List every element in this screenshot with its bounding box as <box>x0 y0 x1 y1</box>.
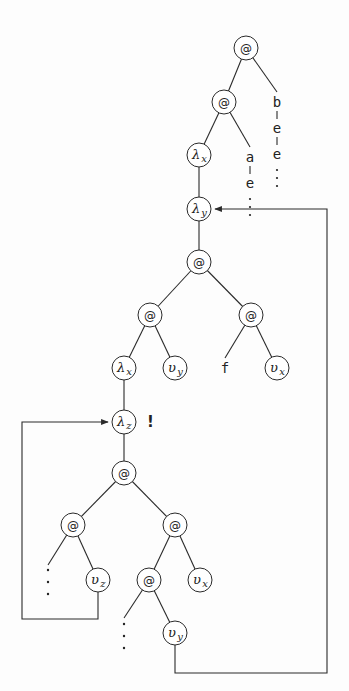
var-node-vy1: υy <box>163 356 187 380</box>
back-edges <box>22 209 327 673</box>
svg-text:x: x <box>126 366 132 377</box>
ellipsis-subtree-0 <box>47 569 49 595</box>
tree-edges <box>48 48 277 633</box>
annotation-bang: ! <box>147 413 154 431</box>
tree-nodes: @@λxλy@@@λxυyυxλz@@@υz@υxυy <box>61 36 289 645</box>
svg-text:e: e <box>246 175 254 191</box>
app-node-app9: @ <box>137 568 161 592</box>
svg-text:@: @ <box>169 519 181 533</box>
svg-text:@: @ <box>143 574 155 588</box>
app-node-app4: @ <box>138 303 162 327</box>
svg-text:υ: υ <box>168 360 176 375</box>
svg-text:b: b <box>273 94 281 110</box>
svg-text:@: @ <box>245 309 257 323</box>
app-node-app3: @ <box>187 250 211 274</box>
app-node-app7: @ <box>61 513 85 537</box>
svg-text:@: @ <box>144 309 156 323</box>
svg-text:λ: λ <box>116 360 125 375</box>
app-node-app5: @ <box>239 303 263 327</box>
back-edge-loop-y <box>175 209 327 673</box>
lambda-node-lamx1: λx <box>187 143 211 167</box>
chain-a: ae <box>246 149 254 216</box>
svg-text:@: @ <box>118 467 130 481</box>
svg-text:λ: λ <box>191 201 200 216</box>
app-node-app2: @ <box>212 90 236 114</box>
lambda-node-lamz: λz <box>112 410 136 434</box>
svg-text:@: @ <box>67 519 79 533</box>
app-node-app6: @ <box>112 461 136 485</box>
svg-text:z: z <box>99 578 106 589</box>
svg-text:y: y <box>176 366 183 377</box>
svg-text:@: @ <box>193 256 205 270</box>
svg-text:υ: υ <box>193 572 201 587</box>
svg-text:y: y <box>200 207 207 218</box>
diagram-svg: faebee @@λxλy@@@λxυyυxλz@@@υz@υxυy ! <box>0 0 349 691</box>
ellipsis-subtree-1 <box>123 623 125 649</box>
var-node-vx2: υx <box>188 568 212 592</box>
lambda-node-lamx2: λx <box>112 356 136 380</box>
svg-text:υ: υ <box>91 572 99 587</box>
svg-text:x: x <box>279 366 285 377</box>
var-node-vy2: υy <box>163 621 187 645</box>
var-node-vz: υz <box>86 568 110 592</box>
lambda-graph-diagram: faebee @@λxλy@@@λxυyυxλz@@@υz@υxυy ! <box>0 0 349 691</box>
svg-text:@: @ <box>240 42 252 56</box>
chain-b: bee <box>273 94 281 187</box>
app-node-app1: @ <box>234 36 258 60</box>
svg-text:υ: υ <box>270 360 278 375</box>
var-node-vx1: υx <box>265 356 289 380</box>
svg-text:a: a <box>246 149 254 165</box>
annotations: ! <box>147 413 154 431</box>
svg-text:λ: λ <box>191 147 200 162</box>
lambda-node-lamy: λy <box>187 197 211 221</box>
svg-text:λ: λ <box>116 414 125 429</box>
svg-text:x: x <box>201 153 207 164</box>
constant-f: f <box>221 360 229 376</box>
svg-text:@: @ <box>218 96 230 110</box>
svg-text:x: x <box>202 578 208 589</box>
svg-text:υ: υ <box>168 625 176 640</box>
svg-text:y: y <box>176 631 183 642</box>
svg-text:z: z <box>125 420 132 431</box>
svg-text:e: e <box>273 146 281 162</box>
app-node-app8: @ <box>163 513 187 537</box>
svg-text:e: e <box>273 120 281 136</box>
